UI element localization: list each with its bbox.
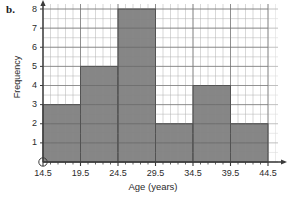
x-tick-label: 39.5 [211,169,251,178]
x-tick-label: 14.5 [23,169,63,178]
y-tick-label: 7 [21,24,37,33]
x-tick-label: 29.5 [136,169,176,178]
y-tick-label: 5 [21,62,37,71]
y-tick-label: 1 [21,138,37,147]
histogram-figure: b. Frequency Age (years) 12345678 14.519… [0,0,291,198]
y-tick-label: 2 [21,119,37,128]
x-tick-label: 34.5 [173,169,213,178]
x-tick-label: 19.5 [61,169,101,178]
y-tick-label: 6 [21,43,37,52]
x-tick-label: 24.5 [98,169,138,178]
y-tick-label: 3 [21,100,37,109]
x-tick-label: 44.5 [248,169,288,178]
y-tick-label: 4 [21,81,37,90]
y-tick-label: 8 [21,5,37,14]
histogram-bars [43,4,268,162]
